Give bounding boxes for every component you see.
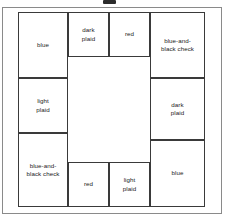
swatch-label: blue (37, 41, 49, 49)
top-edge-artifact (103, 0, 116, 4)
swatch-cell-bottom-red: red (68, 162, 109, 207)
swatch-cell-bottom-light-plaid: light plaid (109, 162, 150, 207)
swatch-label: red (125, 30, 134, 38)
swatch-label: light plaid (123, 176, 136, 192)
swatch-label: dark plaid (171, 101, 184, 117)
swatch-label: blue-and- black check (161, 37, 194, 53)
swatch-label: blue-and- black check (27, 162, 60, 178)
center-empty-region (68, 57, 150, 162)
swatch-cell-bottom-left-check: blue-and- black check (18, 133, 68, 207)
swatch-ring-diagram: bluedark plaidredblue-and- black checkli… (18, 12, 205, 207)
swatch-label: light plaid (36, 97, 49, 113)
swatch-cell-top-left-blue: blue (18, 12, 68, 78)
diagram-canvas: bluedark plaidredblue-and- black checkli… (0, 0, 226, 218)
swatch-cell-top-red: red (109, 12, 150, 57)
swatch-cell-top-right-check: blue-and- black check (150, 12, 205, 78)
swatch-cell-right-blue: blue (150, 140, 205, 207)
swatch-label: blue (172, 169, 184, 177)
swatch-cell-right-dark-plaid: dark plaid (150, 78, 205, 140)
swatch-cell-left-light-plaid: light plaid (18, 78, 68, 133)
swatch-label: red (84, 180, 93, 188)
swatch-label: dark plaid (82, 26, 95, 42)
swatch-cell-top-dark-plaid: dark plaid (68, 12, 109, 57)
